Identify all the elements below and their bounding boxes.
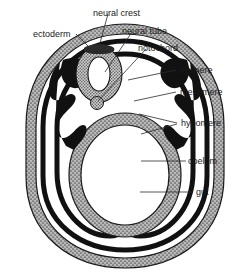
embryo-diagram — [0, 0, 251, 275]
embryo-cross-section-figure: ectodermneural crestneural tubenotochord… — [0, 0, 251, 275]
notochord-circle — [91, 97, 104, 110]
label-epimere: epimere — [180, 66, 213, 75]
label-notochord: notochord — [138, 44, 178, 53]
label-neural-tube: neural tube — [122, 27, 167, 36]
label-hypomere: hypomere — [181, 119, 221, 128]
label-neural-crest: neural crest — [93, 9, 140, 18]
label-gut: gut — [196, 188, 209, 197]
label-mesomere: mesomere — [180, 88, 223, 97]
neural-tube-ring — [76, 46, 122, 102]
label-ectoderm: ectoderm — [33, 30, 71, 39]
label-coelom: coelom — [188, 157, 217, 166]
